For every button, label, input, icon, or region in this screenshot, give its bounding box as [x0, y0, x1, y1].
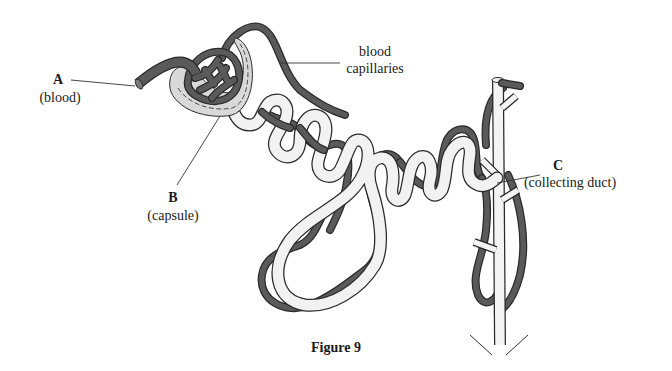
label-capillaries-line2: capillaries	[335, 61, 415, 77]
label-c-letter: C	[548, 158, 568, 174]
figure-9-diagram: .ves-o { fill: none; stroke: #2a2a2a; st…	[0, 0, 672, 371]
label-b-letter: B	[163, 190, 183, 206]
label-a-text: (blood)	[30, 90, 90, 106]
label-c-text: (collecting duct)	[510, 175, 630, 191]
label-b-text: (capsule)	[140, 208, 206, 224]
figure-caption: Figure 9	[0, 340, 672, 356]
label-a-letter: A	[48, 72, 68, 88]
glomerulus	[188, 52, 240, 101]
leader-line-b	[177, 116, 220, 185]
label-capillaries-line1: blood	[345, 44, 405, 60]
leader-line-a	[71, 80, 135, 86]
